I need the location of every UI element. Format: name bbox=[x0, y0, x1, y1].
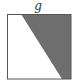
side-label-g: g bbox=[33, 0, 43, 12]
shaded-region bbox=[21, 14, 71, 79]
